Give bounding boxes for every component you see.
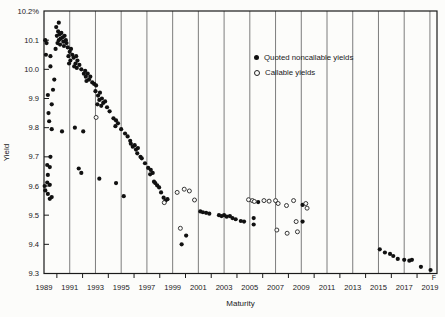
noncallable-point bbox=[46, 93, 50, 97]
y-tick-label: 9.7 bbox=[28, 152, 39, 161]
callable-point bbox=[267, 199, 271, 203]
y-tick-label: 10.2% bbox=[17, 7, 39, 16]
callable-point bbox=[275, 228, 279, 232]
noncallable-point bbox=[50, 102, 54, 106]
noncallable-point bbox=[103, 99, 107, 103]
noncallable-point bbox=[67, 61, 71, 65]
chart-canvas: 1989199119931995199719992001200320052007… bbox=[0, 0, 445, 317]
noncallable-point bbox=[50, 127, 54, 131]
noncallable-point bbox=[52, 77, 56, 81]
noncallable-point bbox=[136, 146, 140, 150]
noncallable-point bbox=[77, 63, 81, 67]
noncallable-point bbox=[64, 41, 68, 45]
noncallable-point bbox=[126, 134, 130, 138]
x-tick-label: 2007 bbox=[267, 283, 284, 292]
noncallable-point bbox=[100, 96, 104, 100]
noncallable-point bbox=[48, 54, 52, 58]
x-tick-label: 2015 bbox=[370, 283, 387, 292]
noncallable-point bbox=[383, 250, 387, 254]
x-axis-title: Maturity bbox=[44, 299, 437, 308]
y-tick-label: 9.6 bbox=[28, 182, 39, 191]
noncallable-point bbox=[79, 67, 83, 71]
y-axis-title: Yield bbox=[2, 138, 11, 168]
noncallable-point bbox=[114, 181, 118, 185]
callable-point bbox=[295, 230, 299, 234]
x-tick-label: 2011 bbox=[319, 283, 335, 292]
y-tick-label: 9.3 bbox=[28, 269, 39, 278]
x-tick-label: 2005 bbox=[241, 283, 258, 292]
forecast-flag-label: F bbox=[427, 274, 441, 281]
noncallable-point bbox=[60, 129, 64, 133]
callable-point bbox=[252, 199, 256, 203]
noncallable-point bbox=[99, 104, 103, 108]
noncallable-point bbox=[46, 173, 50, 177]
y-tick-label: 9.8 bbox=[28, 123, 39, 132]
callable-point bbox=[294, 220, 298, 224]
noncallable-point bbox=[69, 47, 73, 51]
noncallable-point bbox=[48, 165, 52, 169]
legend: Quoted noncallable yields Callable yield… bbox=[254, 50, 353, 80]
noncallable-point bbox=[48, 155, 52, 159]
callable-point bbox=[304, 202, 308, 206]
noncallable-point bbox=[72, 64, 76, 68]
noncallable-point bbox=[48, 183, 52, 187]
x-tick-label: 1989 bbox=[36, 283, 53, 292]
legend-entry-noncallable: Quoted noncallable yields bbox=[254, 50, 353, 65]
callable-point bbox=[292, 199, 296, 203]
noncallable-point bbox=[133, 143, 137, 147]
noncallable-point bbox=[378, 247, 382, 251]
legend-label-noncallable: Quoted noncallable yields bbox=[264, 50, 353, 65]
noncallable-point bbox=[47, 119, 51, 123]
noncallable-point bbox=[410, 258, 414, 262]
noncallable-point bbox=[113, 124, 117, 128]
x-tick-label: 1993 bbox=[87, 283, 104, 292]
noncallable-point bbox=[180, 242, 184, 246]
y-tick-label: 9.4 bbox=[28, 240, 39, 249]
filled-circle-icon bbox=[254, 55, 259, 60]
noncallable-point bbox=[43, 188, 47, 192]
noncallable-point bbox=[44, 41, 48, 45]
legend-label-callable: Callable yields bbox=[265, 65, 315, 80]
callable-point bbox=[193, 198, 197, 202]
noncallable-point bbox=[148, 172, 152, 176]
noncallable-point bbox=[55, 41, 59, 45]
callable-point bbox=[262, 199, 266, 203]
noncallable-point bbox=[59, 31, 63, 35]
noncallable-point bbox=[140, 156, 144, 160]
noncallable-point bbox=[77, 166, 81, 170]
scatter-plot: 1989199119931995199719992001200320052007… bbox=[0, 0, 445, 317]
noncallable-point bbox=[207, 212, 211, 216]
noncallable-point bbox=[48, 64, 52, 68]
noncallable-point bbox=[95, 102, 99, 106]
noncallable-point bbox=[53, 47, 57, 51]
noncallable-point bbox=[143, 161, 147, 165]
x-tick-label: 2013 bbox=[344, 283, 361, 292]
noncallable-point bbox=[256, 200, 260, 204]
noncallable-point bbox=[54, 25, 58, 29]
noncallable-point bbox=[419, 265, 423, 269]
noncallable-point bbox=[88, 75, 92, 79]
x-tick-label: 2017 bbox=[396, 283, 413, 292]
x-tick-label: 2001 bbox=[190, 283, 207, 292]
noncallable-point bbox=[159, 190, 163, 194]
y-tick-label: 10.0 bbox=[24, 65, 39, 74]
y-tick-label: 9.9 bbox=[28, 94, 39, 103]
x-tick-label: 1999 bbox=[164, 283, 181, 292]
x-tick-label: 2009 bbox=[293, 283, 310, 292]
noncallable-point bbox=[428, 268, 432, 272]
noncallable-point bbox=[93, 89, 97, 93]
open-circle-icon bbox=[254, 70, 260, 76]
noncallable-point bbox=[391, 254, 395, 258]
noncallable-point bbox=[108, 109, 112, 113]
x-tick-label: 2003 bbox=[216, 283, 233, 292]
noncallable-point bbox=[51, 88, 55, 92]
legend-entry-callable: Callable yields bbox=[254, 65, 353, 80]
noncallable-point bbox=[43, 184, 47, 188]
noncallable-point bbox=[98, 91, 102, 95]
callable-point bbox=[182, 187, 186, 191]
callable-point bbox=[187, 189, 191, 193]
noncallable-point bbox=[252, 222, 256, 226]
noncallable-point bbox=[242, 219, 246, 223]
noncallable-point bbox=[66, 54, 70, 58]
noncallable-point bbox=[105, 105, 109, 109]
